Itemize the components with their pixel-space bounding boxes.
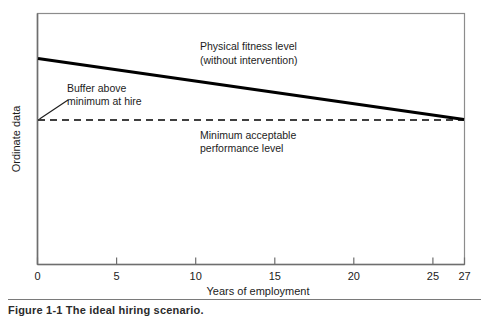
x-tick-label-0: 0 <box>34 270 40 282</box>
chart-svg: 0 5 10 15 20 25 27 Years of employment O… <box>0 0 489 317</box>
x-axis-title: Years of employment <box>207 285 310 297</box>
figure-caption: Figure 1-1 The ideal hiring scenario. <box>8 304 481 316</box>
x-tick-label-20: 20 <box>348 270 360 282</box>
buffer-leader-line <box>40 100 69 119</box>
caption-divider <box>8 299 481 300</box>
physical-fitness-label-line2: (without intervention) <box>200 54 297 66</box>
buffer-label-line1: Buffer above <box>67 82 127 94</box>
figure-container: 0 5 10 15 20 25 27 Years of employment O… <box>0 0 489 317</box>
x-tick-label-25: 25 <box>427 270 439 282</box>
minimum-acceptable-label-line2: performance level <box>200 142 283 154</box>
x-tick-label-5: 5 <box>114 270 120 282</box>
buffer-label-line2: minimum at hire <box>67 95 142 107</box>
y-axis-title: Ordinate data <box>10 105 22 173</box>
x-tick-marks <box>38 258 465 265</box>
physical-fitness-label-line1: Physical fitness level <box>200 40 297 52</box>
x-tick-label-10: 10 <box>190 270 202 282</box>
x-tick-label-27: 27 <box>458 270 470 282</box>
minimum-acceptable-label-line1: Minimum acceptable <box>200 129 296 141</box>
x-tick-label-15: 15 <box>269 270 281 282</box>
